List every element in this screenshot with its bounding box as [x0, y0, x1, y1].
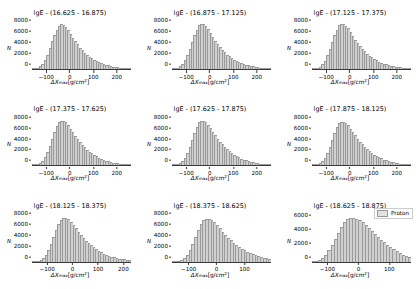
panel-title: lgE - (18.125 - 18.375) — [0, 202, 140, 210]
x-axis-label: ΔXmax[g/cm2] — [280, 174, 420, 181]
y-tick-label: 4000 — [294, 136, 312, 142]
y-tick-label: 4000 — [154, 232, 172, 238]
x-axis-label-unit: [g/cm — [208, 175, 225, 181]
y-tick-label: 6000 — [14, 125, 32, 131]
x-axis-label-unit: [g/cm — [348, 79, 365, 85]
panel-7: lgE - (18.125 - 18.375) N 02000400060008… — [0, 193, 140, 289]
x-axis-label-delta: ΔX — [331, 175, 339, 181]
x-axis-label-sub: max — [59, 177, 68, 182]
plot-area: 02000400060008000 −1000100200 — [172, 117, 271, 166]
x-axis-label-sub: max — [199, 273, 208, 278]
y-tick-label: 2000 — [154, 243, 172, 249]
plot-area: 02000400060008000 −1000100200 — [312, 21, 411, 70]
y-tick-label: 4000 — [294, 226, 312, 232]
panel-title: lgE - (17.375 - 17.625) — [0, 105, 140, 113]
y-axis-label: N — [7, 45, 11, 51]
y-tick-label: 8000 — [14, 17, 32, 23]
plot-area: 02000400060008000 −1000100200 — [32, 117, 131, 166]
x-axis-label: ΔXmax[g/cm2] — [0, 271, 140, 278]
x-axis-label-end: ] — [367, 175, 369, 181]
x-axis-label: ΔXmax[g/cm2] — [140, 271, 280, 278]
x-axis-label: ΔXmax[g/cm2] — [280, 271, 420, 278]
plot-area: 02000400060008000 −1000100200 — [172, 21, 271, 70]
histogram-bars — [32, 117, 131, 165]
x-axis-label-unit: [g/cm — [348, 175, 365, 181]
y-tick-label: 8000 — [154, 210, 172, 216]
y-tick-label: 0 — [304, 157, 312, 163]
panel-5: lgE - (17.625 - 17.875) N 02000400060008… — [140, 96, 280, 192]
y-tick-label: 4000 — [14, 136, 32, 142]
y-tick-label: 8000 — [294, 17, 312, 23]
panel-title: lgE - (16.875 - 17.125) — [140, 9, 280, 17]
y-tick-label: 6000 — [154, 28, 172, 34]
x-axis-label-delta: ΔX — [331, 79, 339, 85]
y-tick-label: 2000 — [294, 240, 312, 246]
panel-4: lgE - (17.375 - 17.625) N 02000400060008… — [0, 96, 140, 192]
histogram-bars — [172, 214, 271, 262]
x-axis-label-end: ] — [87, 175, 89, 181]
x-axis-label-sub: max — [339, 80, 348, 85]
y-axis-label: N — [287, 141, 291, 147]
plot-area: 02000400060008000 −1000100200 — [32, 21, 131, 70]
x-axis-label-delta: ΔX — [51, 271, 59, 277]
x-axis-label-delta: ΔX — [331, 271, 339, 277]
y-axis-label: N — [7, 141, 11, 147]
x-axis-label: ΔXmax[g/cm2] — [0, 78, 140, 85]
plot-area: 02000400060008000 −1000100 — [172, 214, 271, 263]
y-tick-label: 0 — [24, 254, 32, 260]
histogram-bars — [32, 21, 131, 69]
y-tick-label: 8000 — [14, 210, 32, 216]
panel-title: lgE - (17.875 - 18.125) — [280, 105, 420, 113]
panel-3: lgE - (17.125 - 17.375) N 02000400060008… — [280, 0, 420, 96]
y-tick-label: 4000 — [154, 136, 172, 142]
panel-title: lgE - (17.125 - 17.375) — [280, 9, 420, 17]
y-axis-label: N — [147, 141, 151, 147]
y-tick-label: 4000 — [154, 39, 172, 45]
y-tick-label: 2000 — [294, 50, 312, 56]
x-axis-label: ΔXmax[g/cm2] — [0, 174, 140, 181]
y-tick-label: 6000 — [154, 125, 172, 131]
x-axis-label-sub: max — [59, 273, 68, 278]
x-axis-label-end: ] — [227, 175, 229, 181]
histogram-bars — [312, 117, 411, 165]
x-axis-label-delta: ΔX — [191, 79, 199, 85]
histogram-bars — [312, 21, 411, 69]
y-tick-label: 6000 — [14, 28, 32, 34]
x-axis-label-end: ] — [367, 271, 369, 277]
y-tick-label: 0 — [164, 254, 172, 260]
panel-9: lgE - (18.625 - 18.875) N Proton 0200040… — [280, 193, 420, 289]
y-axis-label: N — [287, 45, 291, 51]
x-axis-label: ΔXmax[g/cm2] — [140, 78, 280, 85]
x-axis-label-sub: max — [199, 80, 208, 85]
histogram-bars — [172, 21, 271, 69]
y-tick-label: 2000 — [14, 146, 32, 152]
x-axis-line — [172, 262, 271, 263]
x-axis-label-delta: ΔX — [51, 175, 59, 181]
y-axis-label: N — [147, 45, 151, 51]
x-axis-label-sub: max — [339, 177, 348, 182]
panel-2: lgE - (16.875 - 17.125) N 02000400060008… — [140, 0, 280, 96]
y-axis-label: N — [7, 238, 11, 244]
plot-area: 02000400060008000 −1000100200 — [312, 117, 411, 166]
y-tick-label: 8000 — [154, 114, 172, 120]
x-axis-label-unit: [g/cm — [68, 175, 85, 181]
histogram-bars — [312, 214, 411, 262]
panel-title: lgE - (18.375 - 18.625) — [140, 202, 280, 210]
y-tick-label: 2000 — [294, 146, 312, 152]
x-axis-label-sub: max — [339, 273, 348, 278]
x-axis-label-unit: [g/cm — [208, 79, 225, 85]
y-tick-label: 0 — [164, 61, 172, 67]
x-axis-label-sub: max — [59, 80, 68, 85]
x-axis-label-sub: max — [199, 177, 208, 182]
y-tick-label: 4000 — [14, 232, 32, 238]
x-axis-label-end: ] — [367, 79, 369, 85]
x-axis-label-end: ] — [87, 79, 89, 85]
x-axis-label: ΔXmax[g/cm2] — [140, 174, 280, 181]
y-tick-label: 6000 — [154, 221, 172, 227]
x-axis-label-delta: ΔX — [191, 175, 199, 181]
histogram-grid: lgE - (16.625 - 16.875) N 02000400060008… — [0, 0, 420, 289]
y-axis-label: N — [287, 238, 291, 244]
y-tick-label: 2000 — [154, 146, 172, 152]
x-axis-label-delta: ΔX — [191, 271, 199, 277]
y-tick-label: 0 — [164, 157, 172, 163]
